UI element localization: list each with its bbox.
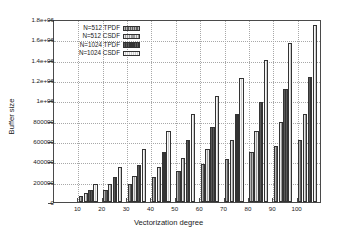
legend-item-label: N=1024 TPDF bbox=[80, 42, 120, 48]
legend-swatch bbox=[123, 51, 140, 56]
bar bbox=[298, 140, 302, 202]
legend-item: N=512 TPDF bbox=[62, 24, 140, 32]
x-axis-tick-label: 70 bbox=[220, 206, 227, 212]
bar bbox=[176, 171, 180, 202]
gridline-horizontal bbox=[54, 82, 320, 83]
bar bbox=[191, 114, 195, 202]
y-axis-tick-label: 200000 bbox=[33, 180, 54, 186]
bar bbox=[283, 89, 287, 202]
legend-swatch bbox=[123, 42, 140, 47]
x-axis-tick-label: 60 bbox=[196, 206, 203, 212]
bar bbox=[210, 127, 214, 202]
legend-item-label: N=512 TPDF bbox=[83, 25, 120, 31]
x-tick-mark bbox=[248, 198, 249, 203]
x-tick-mark bbox=[175, 198, 176, 203]
bar bbox=[142, 149, 146, 202]
y-axis-title: Buffer size bbox=[7, 77, 16, 157]
y-axis-tick-label: 1.6e+06 bbox=[31, 37, 54, 43]
gridline-horizontal bbox=[54, 102, 320, 103]
bar bbox=[132, 176, 136, 202]
bar bbox=[93, 184, 97, 202]
x-axis-tick-label: 80 bbox=[244, 206, 251, 212]
y-axis-tick-label: 0 bbox=[51, 200, 54, 206]
bar bbox=[201, 164, 205, 202]
bar bbox=[215, 96, 219, 202]
legend-item: N=1024 TPDF bbox=[62, 41, 140, 49]
bar bbox=[113, 177, 117, 202]
bar bbox=[249, 152, 253, 202]
x-axis-tick-label: 30 bbox=[123, 206, 130, 212]
bar bbox=[230, 140, 234, 202]
bar bbox=[186, 140, 190, 202]
bar bbox=[152, 177, 156, 202]
x-axis-tick-label: 90 bbox=[269, 206, 276, 212]
x-tick-mark bbox=[224, 198, 225, 203]
bar bbox=[235, 114, 239, 202]
bar bbox=[88, 190, 92, 202]
bar bbox=[162, 152, 166, 202]
bar bbox=[118, 167, 122, 202]
x-axis-tick-label: 10 bbox=[74, 206, 81, 212]
x-tick-mark bbox=[102, 198, 103, 203]
bar bbox=[137, 165, 141, 202]
legend-item-label: N=512 CSDF bbox=[82, 33, 120, 39]
bar bbox=[264, 60, 268, 202]
bar bbox=[225, 159, 229, 203]
x-axis-tick-label: 40 bbox=[147, 206, 154, 212]
y-axis-tick-label: 1.4e+06 bbox=[31, 58, 54, 64]
bar bbox=[157, 167, 161, 202]
bar bbox=[303, 114, 307, 202]
x-tick-mark bbox=[272, 198, 273, 203]
legend-item: N=512 CSDF bbox=[62, 32, 140, 40]
legend-swatch bbox=[123, 34, 140, 39]
bar bbox=[205, 149, 209, 202]
bar bbox=[274, 146, 278, 202]
chart-legend: N=512 TPDFN=512 CSDFN=1024 TPDFN=1024 CS… bbox=[62, 24, 140, 58]
x-axis-tick-label: 50 bbox=[171, 206, 178, 212]
legend-swatch bbox=[123, 26, 140, 31]
gridline-horizontal bbox=[54, 62, 320, 63]
x-tick-mark bbox=[150, 198, 151, 203]
x-tick-mark bbox=[199, 198, 200, 203]
bar bbox=[181, 158, 185, 202]
x-tick-mark bbox=[77, 198, 78, 203]
legend-item-label: N=1024 CSDF bbox=[79, 50, 120, 56]
y-axis-tick-label: 1.2e+06 bbox=[31, 78, 54, 84]
y-axis-tick-label: 1.8e+06 bbox=[31, 17, 54, 23]
bar bbox=[128, 184, 132, 203]
bar bbox=[254, 131, 258, 202]
legend-item: N=1024 CSDF bbox=[62, 49, 140, 57]
x-axis-title: Vectorization degree bbox=[0, 218, 337, 227]
bar bbox=[308, 77, 312, 202]
x-axis-tick-label: 20 bbox=[98, 206, 105, 212]
y-axis-tick-label: 400000 bbox=[33, 159, 54, 165]
bar bbox=[313, 25, 317, 202]
y-axis-tick-label: 800000 bbox=[33, 119, 54, 125]
gridline-vertical bbox=[151, 21, 152, 202]
bar bbox=[84, 193, 88, 202]
bar bbox=[166, 131, 170, 202]
bar bbox=[288, 43, 292, 202]
x-tick-mark bbox=[297, 198, 298, 203]
bar bbox=[108, 184, 112, 202]
bar bbox=[259, 102, 263, 202]
bar bbox=[79, 196, 83, 202]
x-axis-tick-label: 100 bbox=[291, 206, 301, 212]
bar bbox=[103, 190, 107, 202]
bar-chart: 02000004000006000008000001e+061.2e+061.4… bbox=[0, 0, 337, 248]
bar bbox=[239, 78, 243, 202]
y-axis-tick-label: 600000 bbox=[33, 139, 54, 145]
y-axis-tick-label: 1e+06 bbox=[37, 98, 54, 104]
bar bbox=[279, 122, 283, 202]
x-tick-mark bbox=[126, 198, 127, 203]
